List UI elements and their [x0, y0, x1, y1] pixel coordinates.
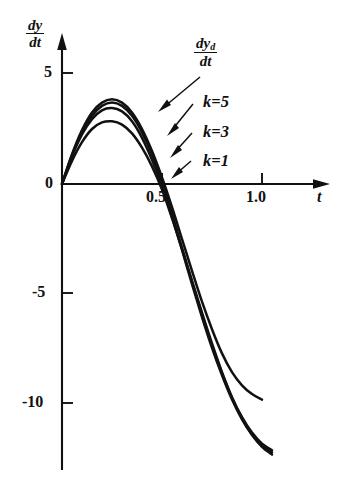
annotation-leaders	[158, 77, 200, 179]
data-curves	[62, 99, 272, 454]
curve-k-3	[62, 108, 272, 452]
annotation-desired-numerator: dyd	[194, 36, 217, 52]
x-tick-label-1point0: 1.0	[246, 189, 266, 205]
y-axis	[57, 33, 67, 470]
figure-container: dy dt 5 0 -5 -10 0.5 1.0 t dyd dt k=5 k=…	[0, 0, 349, 491]
y-tick-label-0: 0	[45, 175, 53, 191]
annotation-desired-subscript: d	[210, 41, 215, 52]
y-axis-label: dy dt	[26, 18, 44, 51]
annotation-k5: k=5	[203, 94, 229, 111]
curve-dy-d-dt-desired	[62, 99, 262, 399]
annotation-desired-denominator: dt	[194, 52, 217, 69]
y-axis-label-denominator: dt	[26, 33, 44, 50]
y-tick-label-5: 5	[44, 64, 52, 80]
x-axis-label: t	[317, 189, 321, 205]
curve-k-1	[62, 121, 272, 454]
x-tick-label-0point5: 0.5	[146, 189, 166, 205]
y-axis-ticks	[62, 73, 73, 403]
annotation-k1: k=1	[203, 153, 229, 170]
y-tick-label-minus5: -5	[32, 284, 45, 300]
annotation-desired-derivative: dyd dt	[194, 36, 217, 70]
curve-k-5	[62, 103, 272, 451]
annotation-k3: k=3	[203, 124, 229, 141]
y-axis-label-numerator: dy	[26, 18, 44, 33]
y-tick-label-minus10: -10	[22, 394, 43, 410]
x-axis	[62, 179, 330, 189]
plot-canvas	[0, 0, 349, 491]
